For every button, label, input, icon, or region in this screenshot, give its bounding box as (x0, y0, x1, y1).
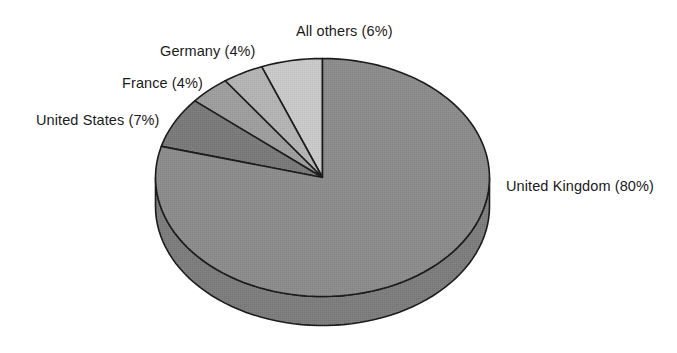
pie-label-germany: Germany (4%) (160, 44, 255, 59)
pie-label-united-kingdom: United Kingdom (80%) (506, 179, 654, 194)
pie-label-france: France (4%) (122, 76, 203, 91)
pie-chart-3d (0, 0, 677, 353)
pie-group (156, 59, 490, 326)
pie-label-all-others: All others (6%) (296, 24, 393, 39)
chart-canvas: All others (6%) Germany (4%) France (4%)… (0, 0, 677, 353)
pie-label-united-states: United States (7%) (36, 113, 160, 128)
